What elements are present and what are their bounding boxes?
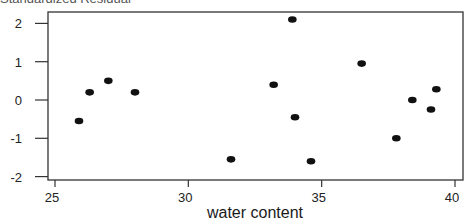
data-point xyxy=(432,86,441,93)
data-point xyxy=(227,156,236,163)
data-points xyxy=(75,16,441,164)
data-point xyxy=(269,81,278,88)
y-axis: -2-1012 xyxy=(10,16,48,184)
data-point xyxy=(288,16,297,23)
x-tick-label: 30 xyxy=(178,190,192,205)
data-point xyxy=(408,97,417,104)
data-point xyxy=(75,118,84,125)
data-point xyxy=(392,135,401,142)
data-point xyxy=(291,114,300,121)
y-tick-label: 1 xyxy=(15,55,22,70)
scatter-plot: -2-1012 25303540 water content xyxy=(0,0,472,223)
plot-frame xyxy=(48,12,463,180)
data-point xyxy=(85,89,94,96)
data-point xyxy=(307,158,316,165)
y-tick-label: 2 xyxy=(15,16,22,31)
x-tick-label: 25 xyxy=(45,190,59,205)
data-point xyxy=(427,106,436,113)
y-tick-label: -2 xyxy=(10,170,22,185)
data-point xyxy=(357,60,366,67)
data-point xyxy=(104,78,113,85)
y-tick-label: 0 xyxy=(15,93,22,108)
x-axis: 25303540 xyxy=(45,180,459,205)
x-tick-label: 35 xyxy=(311,190,325,205)
x-tick-label: 40 xyxy=(445,190,459,205)
y-tick-label: -1 xyxy=(10,131,22,146)
x-axis-title: water content xyxy=(206,204,304,221)
data-point xyxy=(131,89,140,96)
